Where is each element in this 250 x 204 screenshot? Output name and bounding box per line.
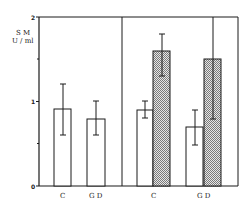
bar-panel2-c-open <box>137 110 153 186</box>
panel-2 <box>137 17 221 186</box>
xcat-panel1-gd: G D <box>89 192 103 200</box>
ytick-label-0: 0 <box>31 183 35 190</box>
xcat-panel2-c: C <box>151 192 156 200</box>
y-axis-label-line2: U / ml <box>12 37 34 45</box>
y-axis-label-line1: S M <box>16 29 30 37</box>
xcat-panel2-gd: G D <box>197 192 211 200</box>
xcat-panel1-c: C <box>60 192 65 200</box>
bar-chart: 0 1 2 S M U / ml <box>0 0 250 204</box>
panel-1 <box>54 84 105 186</box>
ytick-label-1: 1 <box>31 98 35 105</box>
ytick-label-2: 2 <box>31 14 35 21</box>
